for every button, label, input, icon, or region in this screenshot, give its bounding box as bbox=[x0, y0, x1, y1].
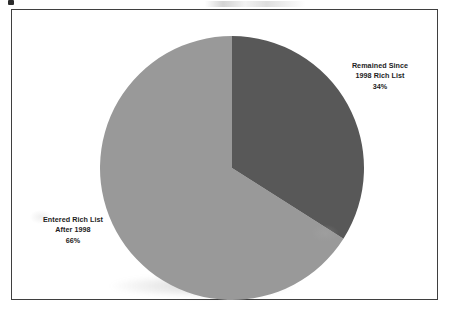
pie-label-entered-rich-list: Entered Rich List After 1998 66% bbox=[21, 215, 125, 246]
scan-artifact-smudge-top bbox=[205, 1, 305, 7]
pie-label-value: 66% bbox=[21, 236, 125, 246]
pie-label-line-1: Remained Since bbox=[330, 61, 430, 71]
pie-label-line-1: Entered Rich List bbox=[21, 215, 125, 225]
scan-artifact-smudge-right bbox=[312, 225, 338, 241]
pie-chart bbox=[100, 36, 364, 300]
pie-label-remained-since-1998: Remained Since 1998 Rich List 34% bbox=[330, 61, 430, 92]
figure-frame bbox=[11, 9, 438, 300]
pie-label-value: 34% bbox=[330, 82, 430, 92]
scan-artifact-mark bbox=[8, 0, 14, 5]
pie-label-line-2: 1998 Rich List bbox=[330, 71, 430, 81]
pie-label-line-2: After 1998 bbox=[21, 225, 125, 235]
